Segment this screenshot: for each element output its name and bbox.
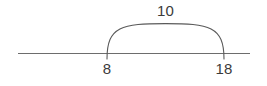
tick-label-end: 18 [215, 61, 232, 77]
number-line-figure: 10 8 18 [0, 0, 266, 86]
jump-value-label: 10 [33, 3, 267, 19]
tick-label-start: 8 [103, 61, 112, 77]
